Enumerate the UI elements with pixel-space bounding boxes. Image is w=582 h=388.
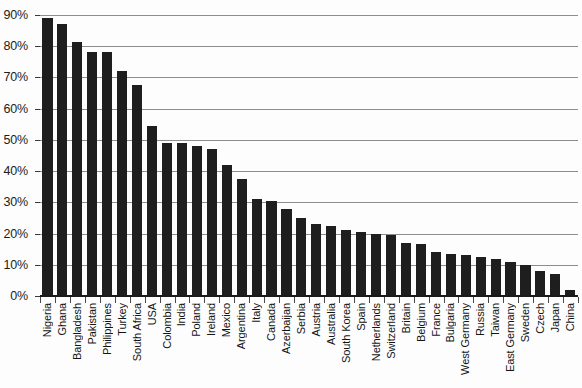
bar-slot xyxy=(249,15,264,296)
x-axis-label: West Germany xyxy=(460,303,471,375)
x-label-slot: Italy xyxy=(249,303,264,388)
plot-area xyxy=(40,15,578,296)
x-axis-label: Belgium xyxy=(416,303,427,342)
y-tick-label: 80% xyxy=(4,39,28,53)
bar xyxy=(177,143,187,296)
x-axis-label: Spain xyxy=(356,303,367,331)
x-label-slot: China xyxy=(563,303,578,388)
bar-slot xyxy=(55,15,70,296)
bar xyxy=(266,201,276,296)
bar-slot xyxy=(294,15,309,296)
bar xyxy=(281,209,291,296)
x-axis-label: France xyxy=(431,303,442,337)
x-label-slot: West Germany xyxy=(458,303,473,388)
x-label-slot: East Germany xyxy=(503,303,518,388)
x-label-slot: Bulgaria xyxy=(444,303,459,388)
x-axis-label: USA xyxy=(147,303,158,325)
bar-slot xyxy=(443,15,458,296)
x-axis-label: China xyxy=(565,303,576,331)
bar xyxy=(132,85,142,296)
bar-slot xyxy=(174,15,189,296)
y-tick-label: 70% xyxy=(4,70,28,84)
x-label-slot: Czech xyxy=(533,303,548,388)
bar-slot xyxy=(309,15,324,296)
x-label-slot: India xyxy=(175,303,190,388)
bar-slot xyxy=(458,15,473,296)
x-axis-label: Canada xyxy=(266,303,277,341)
x-label-slot: Azerbaijan xyxy=(279,303,294,388)
bar xyxy=(162,143,172,296)
bar xyxy=(341,230,351,296)
bar-slot xyxy=(563,15,578,296)
x-axis-label: Netherlands xyxy=(371,303,382,361)
x-label-slot: South Africa xyxy=(130,303,145,388)
bar xyxy=(311,224,321,296)
y-tick-label: 60% xyxy=(4,102,28,116)
bar xyxy=(461,255,471,296)
x-axis-label: Argentina xyxy=(236,303,247,349)
bar xyxy=(416,244,426,296)
y-tick-label: 90% xyxy=(4,8,28,22)
x-axis-label: Sweden xyxy=(520,303,531,342)
y-tick-label: 0% xyxy=(10,289,28,303)
bar xyxy=(356,232,366,296)
bar xyxy=(326,226,336,296)
bar-slot xyxy=(384,15,399,296)
x-label-slot: Ghana xyxy=(55,303,70,388)
bar-slot xyxy=(369,15,384,296)
y-tick-label: 30% xyxy=(4,195,28,209)
bar xyxy=(252,199,262,296)
x-axis-label: Italy xyxy=(251,303,262,323)
x-label-slot: Britain xyxy=(399,303,414,388)
bar-slot xyxy=(413,15,428,296)
bar-slot xyxy=(399,15,414,296)
x-axis-label: Ireland xyxy=(206,303,217,336)
x-label-slot: Netherlands xyxy=(369,303,384,388)
bar xyxy=(491,259,501,296)
x-axis-label: Azerbaijan xyxy=(281,303,292,354)
x-label-slot: Colombia xyxy=(160,303,175,388)
bar xyxy=(222,165,232,296)
x-axis-label: India xyxy=(176,303,187,326)
x-label-slot: Austria xyxy=(309,303,324,388)
x-axis-labels: NigeriaGhanaBangladeshPakistanPhilippine… xyxy=(40,303,578,388)
x-axis-label: Turkey xyxy=(117,303,128,336)
x-axis-label: Philippines xyxy=(102,303,113,355)
x-axis-label: Bangladesh xyxy=(72,303,83,360)
bar xyxy=(431,252,441,296)
bar-slot xyxy=(518,15,533,296)
x-axis-label: Ghana xyxy=(57,303,68,336)
bar-slot xyxy=(503,15,518,296)
x-label-slot: South Korea xyxy=(339,303,354,388)
bar-slot xyxy=(324,15,339,296)
x-axis-label: Colombia xyxy=(162,303,173,349)
x-axis-label: Japan xyxy=(550,303,561,332)
x-tick-mark xyxy=(578,297,579,303)
bar-slot xyxy=(70,15,85,296)
x-label-slot: Poland xyxy=(189,303,204,388)
bar xyxy=(476,257,486,296)
x-label-slot: Nigeria xyxy=(40,303,55,388)
bar xyxy=(147,126,157,296)
bar xyxy=(87,52,97,296)
bar-slot xyxy=(204,15,219,296)
bar xyxy=(237,179,247,296)
y-axis: 0%10%20%30%40%50%60%70%80%90% xyxy=(0,0,34,296)
x-label-slot: Japan xyxy=(548,303,563,388)
x-label-slot: Turkey xyxy=(115,303,130,388)
bar xyxy=(207,149,217,296)
bar xyxy=(446,254,456,296)
x-label-slot: Switzerland xyxy=(384,303,399,388)
x-axis-label: Nigeria xyxy=(42,303,53,337)
x-label-slot: Philippines xyxy=(100,303,115,388)
bar-slot xyxy=(234,15,249,296)
bar-slot xyxy=(354,15,369,296)
bar-slot xyxy=(100,15,115,296)
bar-slot xyxy=(428,15,443,296)
x-label-slot: Belgium xyxy=(414,303,429,388)
bar xyxy=(550,274,560,296)
x-label-slot: Australia xyxy=(324,303,339,388)
bar-slot xyxy=(219,15,234,296)
x-label-slot: Mexico xyxy=(219,303,234,388)
bar-slot xyxy=(85,15,100,296)
